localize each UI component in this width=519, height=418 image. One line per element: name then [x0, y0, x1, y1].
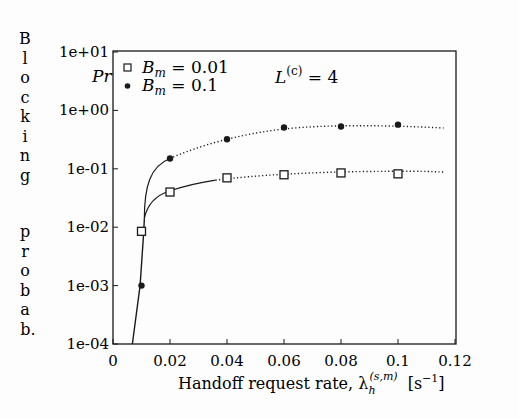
y-axis-ticks: 1e+011e+001e-011e-021e-031e-04	[59, 43, 118, 353]
y-tick-label: 1e+01	[59, 43, 109, 61]
ylabel-letter: g	[20, 166, 30, 185]
ylabel-letter: o	[20, 261, 30, 280]
x-tick-label: 0.12	[438, 352, 471, 370]
y-axis-label: Blockingprobab.	[19, 29, 36, 339]
data-markers	[138, 121, 403, 288]
svg-text:L(c) = 4: L(c) = 4	[274, 64, 338, 87]
dot-marker	[395, 121, 401, 127]
svg-text:Handoff request rate, λh(s,m)[: Handoff request rate, λh(s,m)[s−1]	[178, 370, 445, 397]
square-marker	[223, 174, 231, 182]
ylabel-letter: l	[22, 49, 27, 68]
y-tick-label: 1e-01	[66, 160, 109, 178]
square-marker	[280, 171, 288, 179]
chart-canvas: Blockingprobab. 1e+011e+001e-011e-021e-0…	[0, 0, 519, 418]
ylabel-letter: a	[20, 300, 30, 319]
x-tick-label: 0.1	[386, 352, 410, 370]
y-tick-label: 1e-04	[66, 335, 109, 353]
ylabel-letter: k	[20, 107, 30, 126]
ylabel-letter: r	[21, 242, 29, 261]
legend-label: Bm = 0.1	[141, 75, 218, 98]
ylabel-letter: p	[20, 222, 30, 241]
legend: Bm = 0.01Bm = 0.1	[124, 57, 229, 98]
x-tick-label: 0.06	[267, 352, 300, 370]
dot-marker	[138, 282, 144, 288]
square-marker	[337, 169, 345, 177]
x-tick-label: 0.04	[210, 352, 243, 370]
ylabel-letter: B	[19, 29, 31, 48]
annotation-lc: L(c) = 4	[274, 64, 338, 87]
square-marker	[166, 188, 174, 196]
y-tick-label: 1e+00	[59, 101, 109, 119]
fitted-curves	[132, 126, 443, 344]
y-tick-label: 1e-03	[66, 277, 109, 295]
ylabel-letter: o	[20, 68, 30, 87]
y-tick-label: 1e-02	[66, 218, 109, 236]
square-marker	[394, 170, 402, 178]
x-tick-label: 0.02	[153, 352, 186, 370]
pr-label: Pr	[91, 66, 112, 86]
x-tick-label: 0.08	[324, 352, 357, 370]
ylabel-letter: c	[21, 88, 30, 107]
ylabel-letter: i	[22, 127, 27, 146]
x-tick-label: 0	[108, 352, 118, 370]
square-marker	[138, 227, 146, 235]
x-axis-label: Handoff request rate, λh(s,m)[s−1]	[178, 370, 445, 397]
dot-marker	[338, 123, 344, 129]
ylabel-letter: b.	[20, 320, 35, 339]
dot-marker	[281, 124, 287, 130]
ylabel-letter: b	[20, 281, 30, 300]
dot-marker	[167, 155, 173, 161]
ylabel-letter: n	[20, 146, 30, 165]
dot-marker	[224, 136, 230, 142]
